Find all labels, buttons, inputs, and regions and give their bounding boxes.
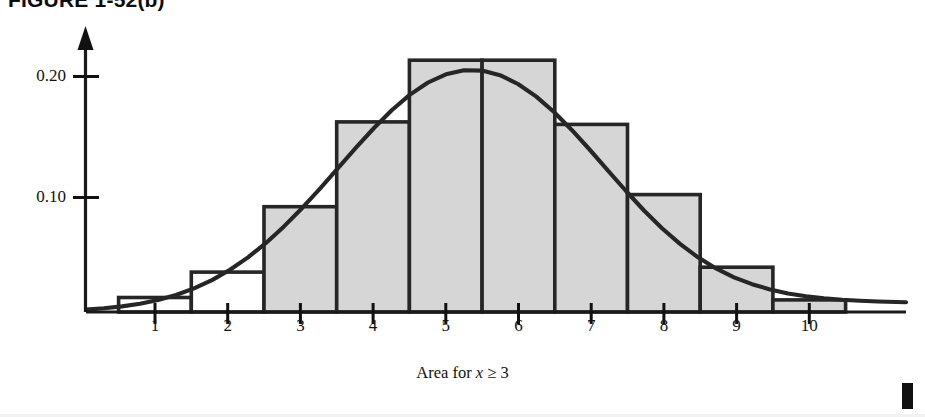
y-axis-arrow-icon xyxy=(78,26,94,50)
caption-prefix: Area for xyxy=(416,363,476,382)
figure-caption: Area for x ≥ 3 xyxy=(0,363,925,383)
histogram-bar xyxy=(482,60,555,312)
x-axis-tick-label-8: 8 xyxy=(660,316,669,336)
histogram-bars xyxy=(119,60,846,312)
figure-container: FIGURE 1-52(b) xyxy=(0,0,925,417)
x-axis-tick-label-5: 5 xyxy=(442,316,451,336)
histogram-bar xyxy=(337,122,410,312)
histogram-chart xyxy=(0,0,925,417)
x-axis-tick-label-4: 4 xyxy=(369,316,378,336)
x-axis-tick-label-3: 3 xyxy=(296,316,305,336)
x-axis-tick-label-10: 10 xyxy=(801,316,818,336)
caption-suffix: ≥ 3 xyxy=(483,363,509,382)
x-axis-tick-label-2: 2 xyxy=(223,316,232,336)
x-axis-tick-label-9: 9 xyxy=(732,316,741,336)
x-axis-tick-label-7: 7 xyxy=(587,316,596,336)
page-marker-artifact xyxy=(902,383,913,409)
histogram-bar xyxy=(409,60,482,312)
x-axis-tick-label-1: 1 xyxy=(151,316,160,336)
histogram-bar xyxy=(264,207,337,312)
y-axis-tick-label-0.20: 0.20 xyxy=(14,66,66,86)
x-axis-tick-label-6: 6 xyxy=(514,316,523,336)
y-axis-tick-label-0.10: 0.10 xyxy=(14,187,66,207)
